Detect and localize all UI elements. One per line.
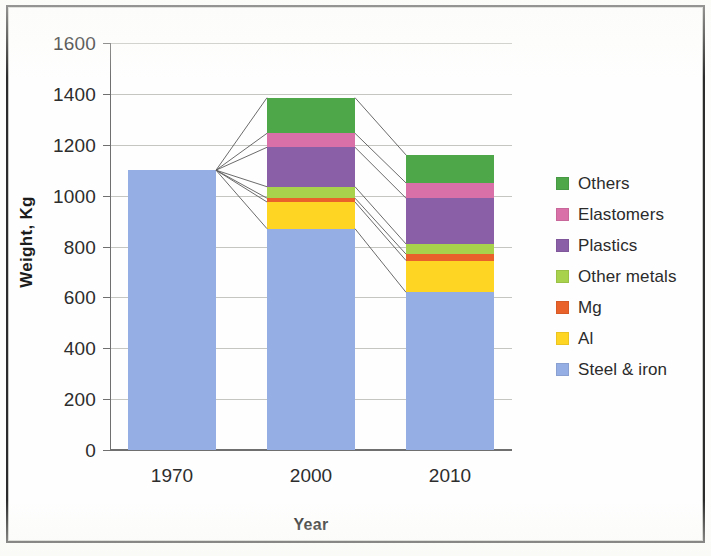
y-axis-title: Weight, Kg [17,177,37,307]
y-tick-label-text: 600 [64,287,96,309]
bar-segment-2000-other-metals[interactable] [267,187,355,198]
y-tick-label-text: 200 [64,389,96,411]
legend-item-al[interactable]: Al [556,323,706,354]
legend-item-label: Elastomers [578,205,664,225]
legend-item-steel-iron[interactable]: Steel & iron [556,354,706,385]
legend-item-label: Al [578,329,593,349]
legend-item-label: Steel & iron [578,360,667,380]
bar-segment-2000-al[interactable] [267,202,355,229]
y-tick-label-text: 800 [64,237,96,259]
legend-swatch-icon [556,332,569,345]
bar-segment-2010-elastomers[interactable] [406,183,494,198]
legend-swatch-icon [556,239,569,252]
bar-segment-2010-plastics[interactable] [406,198,494,244]
legend-item-plastics[interactable]: Plastics [556,230,706,261]
y-tick-mark-0 [103,450,111,451]
legend-item-label: Other metals [578,267,677,287]
bar-1970[interactable] [128,170,216,450]
bar-segment-1970-steel-iron[interactable] [128,170,216,450]
bar-segment-2000-steel-iron[interactable] [267,229,355,450]
legend-swatch-icon [556,301,569,314]
legend-swatch-icon [556,177,569,190]
bar-segment-2010-al[interactable] [406,261,494,293]
y-tick-label-text: 1000 [53,186,96,208]
legend-swatch-icon [556,270,569,283]
legend-item-label: Mg [578,298,602,318]
y-tick-label-text: 400 [64,338,96,360]
bar-segment-2010-steel-iron[interactable] [406,292,494,450]
legend-item-label: Others [578,174,630,194]
gridline-0 [110,450,512,451]
x-tick-label-2010: 2010 [390,465,510,487]
legend-item-mg[interactable]: Mg [556,292,706,323]
bar-segment-2000-mg[interactable] [267,198,355,202]
legend-item-others[interactable]: Others [556,168,706,199]
chart-legend: OthersElastomersPlasticsOther metalsMgAl… [556,168,706,385]
y-tick-label-text: 0 [85,440,96,462]
chart-figure: 02004006008001000120014001600 Weight, Kg… [0,0,711,556]
bar-segment-2000-others[interactable] [267,98,355,134]
bar-2000[interactable] [267,98,355,450]
legend-swatch-icon [556,208,569,221]
legend-swatch-icon [556,363,569,376]
y-tick-label-text: 1200 [53,135,96,157]
x-tick-label-2000: 2000 [251,465,371,487]
y-tick-label-text: 1400 [53,84,96,106]
x-axis-title: Year [110,516,512,534]
bar-segment-2000-plastics[interactable] [267,147,355,186]
bar-segment-2010-mg[interactable] [406,254,494,260]
bar-segment-2010-others[interactable] [406,155,494,183]
legend-item-label: Plastics [578,236,637,256]
bar-2010[interactable] [406,155,494,450]
legend-item-other-metals[interactable]: Other metals [556,261,706,292]
y-tick-label-text: 1600 [53,33,96,55]
bar-segment-2010-other-metals[interactable] [406,244,494,254]
legend-item-elastomers[interactable]: Elastomers [556,199,706,230]
x-tick-label-1970: 1970 [112,465,232,487]
bar-segment-2000-elastomers[interactable] [267,133,355,147]
